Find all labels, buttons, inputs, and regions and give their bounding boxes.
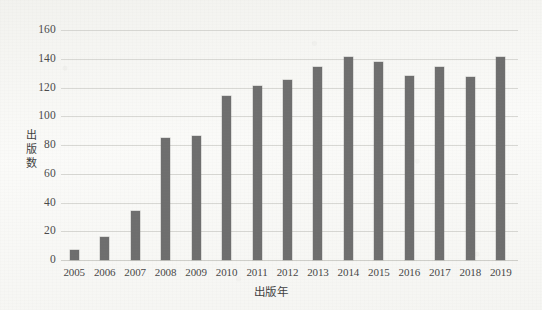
x-tick-label-2017: 2017 xyxy=(423,266,457,278)
x-tick-label-2015: 2015 xyxy=(362,266,396,278)
x-tick-label-2012: 2012 xyxy=(271,266,305,278)
bar-2018 xyxy=(466,77,475,260)
x-tick-label-2011: 2011 xyxy=(240,266,274,278)
y-tick-label-40: 40 xyxy=(44,196,56,208)
x-tick-label-2010: 2010 xyxy=(210,266,244,278)
bar-2008 xyxy=(161,138,170,260)
x-tick-label-2019: 2019 xyxy=(484,266,518,278)
y-tick-label-120: 120 xyxy=(38,81,56,93)
x-tick-label-2013: 2013 xyxy=(301,266,335,278)
y-tick-label-20: 20 xyxy=(44,224,56,236)
x-axis-title: 出版年 xyxy=(0,283,542,299)
y-tick-label-60: 60 xyxy=(44,167,56,179)
plot-area xyxy=(61,30,518,260)
bar-2016 xyxy=(405,76,414,260)
y-tick-label-100: 100 xyxy=(38,109,56,121)
bar-2010 xyxy=(222,96,231,260)
bar-chart-figure: 020406080100120140160 200520062007200820… xyxy=(0,0,542,310)
bar-2017 xyxy=(435,67,444,260)
y-axis-title-char: 数 xyxy=(23,156,39,170)
x-tick-label-2009: 2009 xyxy=(179,266,213,278)
y-tick-label-80: 80 xyxy=(44,138,56,150)
x-tick-label-2016: 2016 xyxy=(392,266,426,278)
y-axis-title-char: 出 xyxy=(23,128,39,142)
bar-2009 xyxy=(192,136,201,260)
x-tick-label-2008: 2008 xyxy=(149,266,183,278)
y-axis-title: 出版数 xyxy=(23,128,39,170)
bar-2012 xyxy=(283,80,292,260)
bar-series xyxy=(61,30,518,260)
bar-2015 xyxy=(374,62,383,260)
bar-2011 xyxy=(253,86,262,260)
y-tick-label-160: 160 xyxy=(38,23,56,35)
bar-2006 xyxy=(100,237,109,260)
x-tick-label-2018: 2018 xyxy=(453,266,487,278)
y-tick-label-140: 140 xyxy=(38,52,56,64)
gridline-0 xyxy=(61,260,518,261)
y-tick-label-0: 0 xyxy=(50,253,56,265)
bar-2013 xyxy=(313,67,322,260)
x-tick-label-2006: 2006 xyxy=(88,266,122,278)
x-tick-label-2014: 2014 xyxy=(331,266,365,278)
bar-2005 xyxy=(70,250,79,260)
y-axis-title-char: 版 xyxy=(23,142,39,156)
bar-2019 xyxy=(496,57,505,260)
x-tick-label-2005: 2005 xyxy=(57,266,91,278)
bar-2007 xyxy=(131,211,140,260)
x-tick-label-2007: 2007 xyxy=(118,266,152,278)
bar-2014 xyxy=(344,57,353,260)
